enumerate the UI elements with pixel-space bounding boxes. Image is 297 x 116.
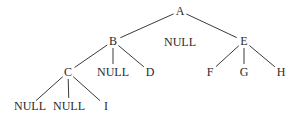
node-a: A (176, 4, 185, 18)
node-f: F (207, 65, 214, 79)
node-h: H (277, 65, 286, 79)
node-c: C (64, 65, 72, 79)
edge-c-i (73, 77, 100, 101)
node-null-c1: NULL (14, 99, 46, 113)
node-null-c2: NULL (53, 99, 85, 113)
tree-nodes: ABNULLECNULLDFGHNULLNULLI (14, 4, 286, 113)
node-g: G (240, 65, 249, 79)
node-i: I (104, 99, 108, 113)
edge-c-null-c2 (68, 79, 69, 98)
edge-e-h (249, 45, 275, 66)
node-e: E (240, 34, 247, 48)
edge-e-f (216, 46, 239, 67)
edge-b-d (118, 45, 144, 66)
tree-edges (36, 14, 275, 101)
edge-c-null-c1 (36, 77, 63, 101)
tree-diagram: ABNULLECNULLDFGHNULLNULLI (0, 0, 297, 116)
node-null-a: NULL (164, 35, 196, 49)
node-b: B (109, 34, 117, 48)
node-null-b: NULL (97, 65, 129, 79)
node-d: D (146, 65, 155, 79)
